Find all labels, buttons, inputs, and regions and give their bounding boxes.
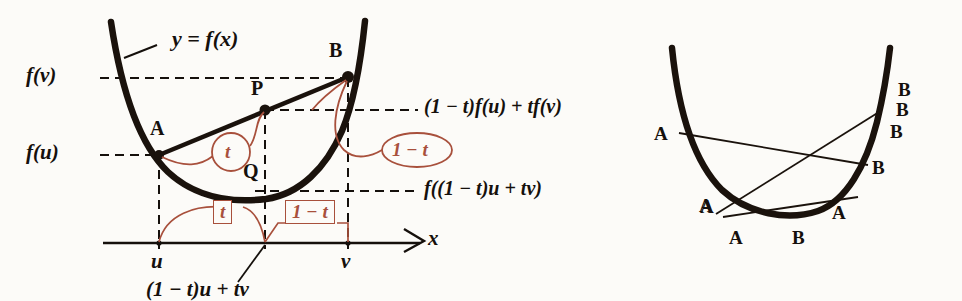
y-label-f-of-u: f(u) (26, 142, 59, 163)
figure-root: y = f(x) f(v) f(u) (1 − t)f(u) + tf(v) f… (0, 0, 962, 301)
figure-canvas (0, 0, 962, 301)
y-label-chord-value: (1 − t)f(u) + tf(v) (424, 96, 562, 116)
point-label-a: A (150, 118, 164, 138)
x-label-midpoint: (1 − t)u + tv (146, 279, 249, 300)
right-chord-1 (679, 133, 868, 165)
x-label-u: u (151, 251, 163, 272)
one-minus-t-connector-ellipse (335, 81, 382, 157)
right-label-b-2: B (896, 100, 909, 119)
ratio-tag-one-minus-t-ellipse: 1 − t (392, 140, 428, 159)
x-label-v: v (341, 251, 350, 272)
right-label-a-3: A (729, 228, 743, 247)
bracket-one-minus-t-left (265, 223, 295, 242)
curve-label-leader (124, 45, 157, 58)
right-panel-curve (672, 48, 890, 215)
brace-t-right (243, 207, 265, 242)
right-label-b-4: B (890, 122, 903, 141)
y-label-curve-value: f((1 − t)u + tv) (424, 178, 542, 198)
right-label-a-1: A (654, 124, 668, 143)
bracket-one-minus-t-right (337, 223, 348, 242)
x-axis-arrow (404, 229, 424, 252)
ratio-box-one-minus-t: 1 − t (285, 200, 335, 224)
point-label-q: Q (243, 161, 259, 181)
right-label-b-1: B (872, 158, 885, 177)
right-label-a-4: A (832, 203, 846, 222)
point-label-b: B (329, 40, 342, 60)
right-label-b-5: B (898, 80, 911, 99)
ratio-tag-t-circle: t (225, 142, 230, 161)
ratio-box-t: t (213, 200, 232, 224)
y-label-f-of-v: f(v) (26, 65, 56, 86)
axis-label-x: x (428, 228, 439, 249)
right-label-a-5: A (700, 197, 714, 216)
t-connector-left (162, 156, 213, 164)
right-label-b-3: B (792, 228, 805, 247)
curve-equation-label: y = f(x) (172, 28, 238, 50)
point-a-dot (154, 150, 164, 160)
point-label-p: P (251, 78, 263, 98)
